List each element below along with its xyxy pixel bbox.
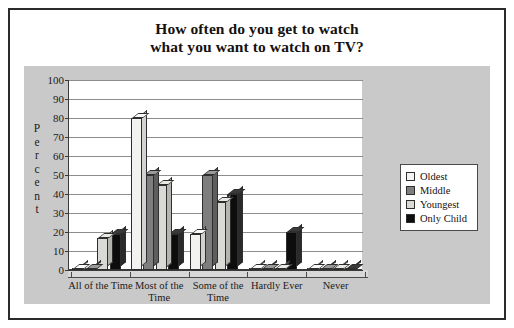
bar-face xyxy=(190,234,201,270)
y-axis-tick-label: 60 xyxy=(24,151,64,162)
x-axis-category-label-line: Never xyxy=(297,280,375,292)
legend-item-oldest[interactable]: Oldest xyxy=(406,169,472,183)
bar-middle xyxy=(320,269,331,270)
legend-item-only-child[interactable]: Only Child xyxy=(406,211,472,225)
y-axis-tick-label: 30 xyxy=(24,208,64,219)
bar-youngest xyxy=(274,269,285,270)
bar-group xyxy=(128,80,187,270)
y-axis-tick-label: 0 xyxy=(24,265,64,276)
y-axis-tick-label: 40 xyxy=(24,189,64,200)
legend-swatch-icon xyxy=(406,186,415,195)
bar-youngest xyxy=(332,269,343,270)
y-axis-tick-label: 10 xyxy=(24,246,64,257)
legend-label: Only Child xyxy=(420,213,467,224)
bar-middle xyxy=(261,269,272,270)
legend-label: Oldest xyxy=(420,171,447,182)
bar-side xyxy=(167,177,172,266)
bar-oldest xyxy=(249,269,260,270)
y-axis-tick-mark xyxy=(65,270,69,271)
y-axis-tick-label: 50 xyxy=(24,170,64,181)
figure-frame: How often do you get to watch what you w… xyxy=(8,8,506,320)
bar-oldest xyxy=(190,234,201,270)
y-axis-tick-label: 80 xyxy=(24,113,64,124)
bar-side xyxy=(154,167,159,266)
x-axis-category-label: Never xyxy=(297,280,375,292)
bar-group xyxy=(304,80,363,270)
bar-side xyxy=(142,110,147,266)
x-axis-tick-mark xyxy=(130,272,131,278)
chart-title: How often do you get to watch what you w… xyxy=(10,20,504,56)
x-axis-category-label-line: Time xyxy=(179,292,257,304)
plot-area: 0102030405060708090100 xyxy=(68,80,362,270)
bar-middle xyxy=(85,269,96,270)
y-axis-tick-label: 70 xyxy=(24,132,64,143)
y-axis-tick-label: 20 xyxy=(24,227,64,238)
x-axis: All of the TimeMost of theTimeSome of th… xyxy=(68,278,368,314)
bar-face xyxy=(131,118,142,270)
legend-swatch-icon xyxy=(406,200,415,209)
bar-oldest xyxy=(307,269,318,270)
gridline xyxy=(69,270,363,271)
bar-oldest xyxy=(72,269,83,270)
bar-side xyxy=(226,194,231,266)
chart-title-line-1: How often do you get to watch xyxy=(155,20,359,37)
chart-legend: OldestMiddleYoungestOnly Child xyxy=(400,164,478,231)
bar-only-child xyxy=(345,269,356,270)
plot-floor xyxy=(68,270,368,278)
bar-group xyxy=(187,80,246,270)
bar-side xyxy=(213,167,218,266)
bar-side xyxy=(238,186,243,266)
x-axis-tick-mark xyxy=(71,272,72,278)
bar-top xyxy=(144,170,161,175)
bar-top xyxy=(203,170,220,175)
legend-label: Youngest xyxy=(420,199,459,210)
bar-group xyxy=(245,80,304,270)
legend-swatch-icon xyxy=(406,172,415,181)
y-axis-tick-label: 100 xyxy=(24,75,64,86)
legend-item-middle[interactable]: Middle xyxy=(406,183,472,197)
legend-item-youngest[interactable]: Youngest xyxy=(406,197,472,211)
chart-title-line-2: what you want to watch on TV? xyxy=(10,38,504,56)
bar-top xyxy=(169,229,186,234)
plot-panel: Percent 0102030405060708090100 All of th… xyxy=(24,66,490,304)
bar-series-container xyxy=(69,80,363,270)
bar-oldest xyxy=(131,118,142,270)
legend-swatch-icon xyxy=(406,214,415,223)
legend-label: Middle xyxy=(420,185,450,196)
x-axis-tick-mark xyxy=(306,272,307,278)
y-axis-tick-label: 90 xyxy=(24,94,64,105)
plot-wrapper: 0102030405060708090100 All of the TimeMo… xyxy=(68,80,368,277)
chart-figure: How often do you get to watch what you w… xyxy=(0,0,514,328)
bar-group xyxy=(69,80,128,270)
x-axis-tick-mark xyxy=(189,272,190,278)
x-axis-tick-mark xyxy=(247,272,248,278)
x-axis-tick-mark xyxy=(365,272,366,278)
